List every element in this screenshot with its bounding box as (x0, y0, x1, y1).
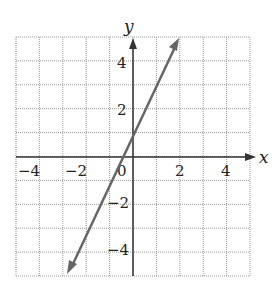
x-axis-label: x (259, 147, 269, 167)
x-tick: 2 (175, 162, 185, 180)
x-tick: 4 (221, 162, 231, 180)
y-tick: −4 (107, 241, 129, 259)
line-arrow-icon (169, 38, 179, 51)
x-tick: −4 (18, 162, 40, 180)
coordinate-plane: x y −4 −2 0 2 4 4 2 −2 −4 (0, 0, 277, 284)
y-axis-arrow-icon (129, 38, 137, 49)
y-tick: −2 (107, 194, 129, 212)
y-tick: 4 (117, 54, 127, 72)
line-y-2x-plus-1 (72, 45, 176, 266)
y-tick: 2 (117, 101, 127, 119)
y-axis-label: y (123, 16, 134, 36)
line-arrow-icon (67, 260, 77, 274)
x-tick: −2 (65, 162, 87, 180)
